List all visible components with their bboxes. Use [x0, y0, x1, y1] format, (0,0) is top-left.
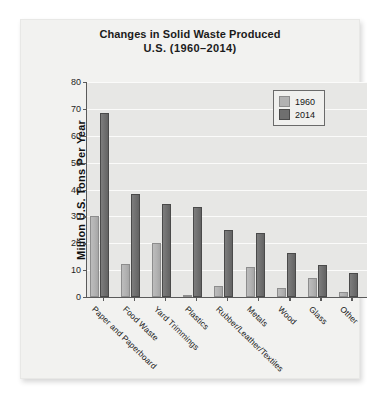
bar — [131, 194, 140, 297]
x-axis-label: Other — [338, 304, 360, 326]
bar — [90, 216, 99, 297]
chart-subtitle: U.S. (1960–2014) — [21, 41, 359, 55]
bar — [121, 264, 130, 297]
legend-label-1960: 1960 — [295, 97, 315, 107]
legend-swatch-icon-2014 — [279, 109, 290, 120]
chart-legend: 1960 2014 — [273, 90, 325, 126]
bar-group — [87, 82, 118, 297]
bar — [277, 288, 286, 297]
bar — [193, 207, 202, 297]
bar-group — [243, 82, 274, 297]
legend-swatch-icon-1960 — [279, 96, 290, 107]
bar — [349, 273, 358, 297]
bar-group — [336, 82, 367, 297]
bar — [256, 233, 265, 297]
bar — [318, 265, 327, 297]
y-axis-tick-label: 20 — [71, 238, 81, 248]
x-axis-tick-mark — [258, 297, 259, 301]
bar — [308, 278, 317, 297]
y-axis-tick-label: 40 — [71, 185, 81, 195]
bar-group — [149, 82, 180, 297]
chart-title: Changes in Solid Waste Produced — [21, 27, 359, 41]
y-axis-tick-label: 80 — [71, 77, 81, 87]
bar — [162, 204, 171, 297]
y-axis-tick-label: 70 — [71, 104, 81, 114]
y-axis-tick-label: 50 — [71, 158, 81, 168]
x-axis-label: Glass — [307, 304, 330, 326]
x-axis-label: Metals — [245, 304, 270, 329]
bar — [183, 295, 192, 297]
x-axis-label: Wood — [276, 304, 299, 326]
x-axis-tick-mark — [227, 297, 228, 301]
chart-title-block: Changes in Solid Waste Produced U.S. (19… — [21, 27, 359, 55]
bar-group — [211, 82, 242, 297]
x-axis-tick-mark — [289, 297, 290, 301]
bar — [339, 292, 348, 297]
bar — [100, 113, 109, 297]
bar — [214, 286, 223, 297]
x-axis-tick-mark — [351, 297, 352, 301]
x-axis-tick-mark — [134, 297, 135, 301]
x-axis-tick-mark — [165, 297, 166, 301]
y-axis-tick-label: 60 — [71, 131, 81, 141]
legend-label-2014: 2014 — [295, 110, 315, 120]
bar-group — [118, 82, 149, 297]
x-axis-tick-mark — [320, 297, 321, 301]
bar — [152, 243, 161, 297]
y-axis-tick-label: 30 — [71, 211, 81, 221]
y-axis-tick-label: 0 — [76, 292, 81, 302]
bar — [246, 267, 255, 297]
bar-group — [180, 82, 211, 297]
y-axis-tick-label: 10 — [71, 265, 81, 275]
x-axis-label: Plastics — [183, 304, 211, 332]
chart-card: Changes in Solid Waste Produced U.S. (19… — [20, 19, 360, 379]
bar — [224, 230, 233, 297]
legend-item-2014: 2014 — [279, 108, 315, 121]
bar — [287, 253, 296, 297]
legend-item-1960: 1960 — [279, 95, 315, 108]
x-axis-tick-mark — [196, 297, 197, 301]
x-axis-tick-mark — [103, 297, 104, 301]
y-axis-tick-mark — [83, 297, 87, 298]
